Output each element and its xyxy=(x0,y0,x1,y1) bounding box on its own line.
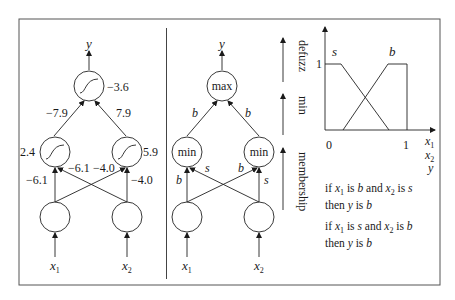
stage-label-membership: membership xyxy=(296,152,310,211)
rule-1-line-2: then y is b xyxy=(325,199,450,212)
x-tick-1: 1 xyxy=(403,138,409,152)
input-label-x1: x1 xyxy=(49,258,60,275)
output-bias: −3.6 xyxy=(107,80,129,94)
axis-label-y: y xyxy=(427,161,434,175)
rule-1-line-1: if x1 is b and x2 is s xyxy=(325,182,450,199)
output-node xyxy=(74,71,104,101)
edge-label-b: b xyxy=(176,173,182,187)
stage-label-min: min xyxy=(296,96,310,115)
membership-node-2 xyxy=(244,202,274,232)
input-label-x2: x2 xyxy=(121,258,132,275)
weight-x2-h2: −4.0 xyxy=(131,173,153,187)
diagram-canvas: y −3.6 −7.9 7.9 2.4 5.9 −6.1 −6.1 −4.0 −… xyxy=(0,0,455,300)
sigmoid-icon xyxy=(118,145,136,159)
fuzzy-output-label: y xyxy=(217,36,225,51)
sigmoid-icon xyxy=(46,145,64,159)
membership-b-curve xyxy=(343,64,407,130)
fuzzy-input-x1: x1 xyxy=(181,258,192,275)
hidden-bias-2: 5.9 xyxy=(143,145,158,159)
input-node-2 xyxy=(112,202,142,232)
edge-label-b: b xyxy=(192,106,198,120)
rule-2-line-1: if x1 is s and x2 is b xyxy=(325,220,450,237)
sigmoid-icon xyxy=(80,79,98,93)
stage-label-defuzz: defuzz xyxy=(296,40,310,72)
edge-label-s: s xyxy=(205,161,210,175)
x-tick-0: 0 xyxy=(326,138,332,152)
hidden-node-2 xyxy=(112,137,142,167)
edge-label-b: b xyxy=(238,161,244,175)
hidden-node-1 xyxy=(40,137,70,167)
rule-2-line-2: then y is b xyxy=(325,237,450,250)
min-node-1-label: min xyxy=(178,145,197,159)
edge-label-s: s xyxy=(264,173,269,187)
label-s: s xyxy=(332,44,337,59)
weight-x1-h1: −6.1 xyxy=(26,173,48,187)
output-label: y xyxy=(84,36,92,51)
y-tick-1: 1 xyxy=(316,57,322,71)
weight-top-left: −7.9 xyxy=(46,106,68,120)
min-node-2-label: min xyxy=(250,145,269,159)
weight-x2-h1: −6.1 xyxy=(68,161,90,175)
membership-s-curve xyxy=(325,64,389,130)
weight-top-right: 7.9 xyxy=(116,106,131,120)
max-node-label: max xyxy=(212,79,233,93)
membership-chart xyxy=(325,27,435,130)
hidden-bias-1: 2.4 xyxy=(20,145,35,159)
label-b: b xyxy=(389,44,396,59)
input-node-1 xyxy=(40,202,70,232)
membership-node-1 xyxy=(172,202,202,232)
edge-label-b: b xyxy=(245,106,251,120)
rule-1: if x1 is b and x2 is s then y is b xyxy=(325,182,450,212)
weight-x1-h2: −4.0 xyxy=(93,161,115,175)
fuzzy-input-x2: x2 xyxy=(253,258,264,275)
rule-2: if x1 is s and x2 is b then y is b xyxy=(325,220,450,250)
